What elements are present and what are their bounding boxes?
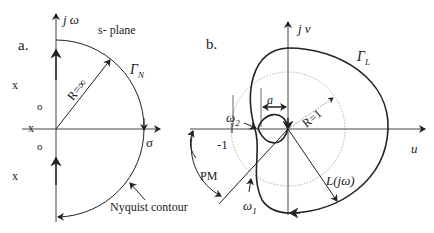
- gamma-l-label: ΓL: [357, 50, 370, 67]
- sigma-axis-label: σ: [146, 136, 153, 149]
- zero-marker-upper: o: [37, 101, 43, 112]
- gamma-n-label: ΓN: [130, 63, 144, 80]
- gamma-l-outer-right: [288, 48, 388, 213]
- nyquist-contour-label: Nyquist contour: [110, 201, 188, 213]
- nyquist-annotation-arrow: [130, 183, 145, 200]
- pole-marker-upper: x: [12, 79, 18, 91]
- panel-a: [22, 14, 160, 222]
- diagram-canvas: [0, 0, 434, 233]
- pm-line: [219, 129, 288, 204]
- jv-axis-label: j v: [298, 22, 311, 35]
- pm-label: PM: [200, 170, 217, 182]
- minus-one-label: -1: [217, 138, 228, 151]
- panel-a-label: a.: [18, 38, 28, 53]
- u-axis-label: u: [411, 142, 418, 155]
- nyquist-arc-upper: [56, 40, 144, 129]
- gamma-l-left: [251, 48, 290, 213]
- omega1-label: ω1: [243, 199, 257, 216]
- pole-marker-origin: x: [28, 122, 34, 134]
- s-plane-label: s- plane: [98, 24, 136, 36]
- omega2-label: ω2: [226, 111, 240, 128]
- panel-b-label: b.: [206, 37, 217, 52]
- a-label: a: [267, 94, 273, 106]
- l-jw-vector: [288, 129, 337, 201]
- l-jw-label: L(jω): [326, 174, 355, 187]
- pole-marker-lower: x: [12, 170, 18, 182]
- zero-marker-lower: o: [37, 141, 43, 152]
- omega1-arrow: [249, 179, 251, 192]
- jw-axis-label: j ω: [63, 13, 79, 26]
